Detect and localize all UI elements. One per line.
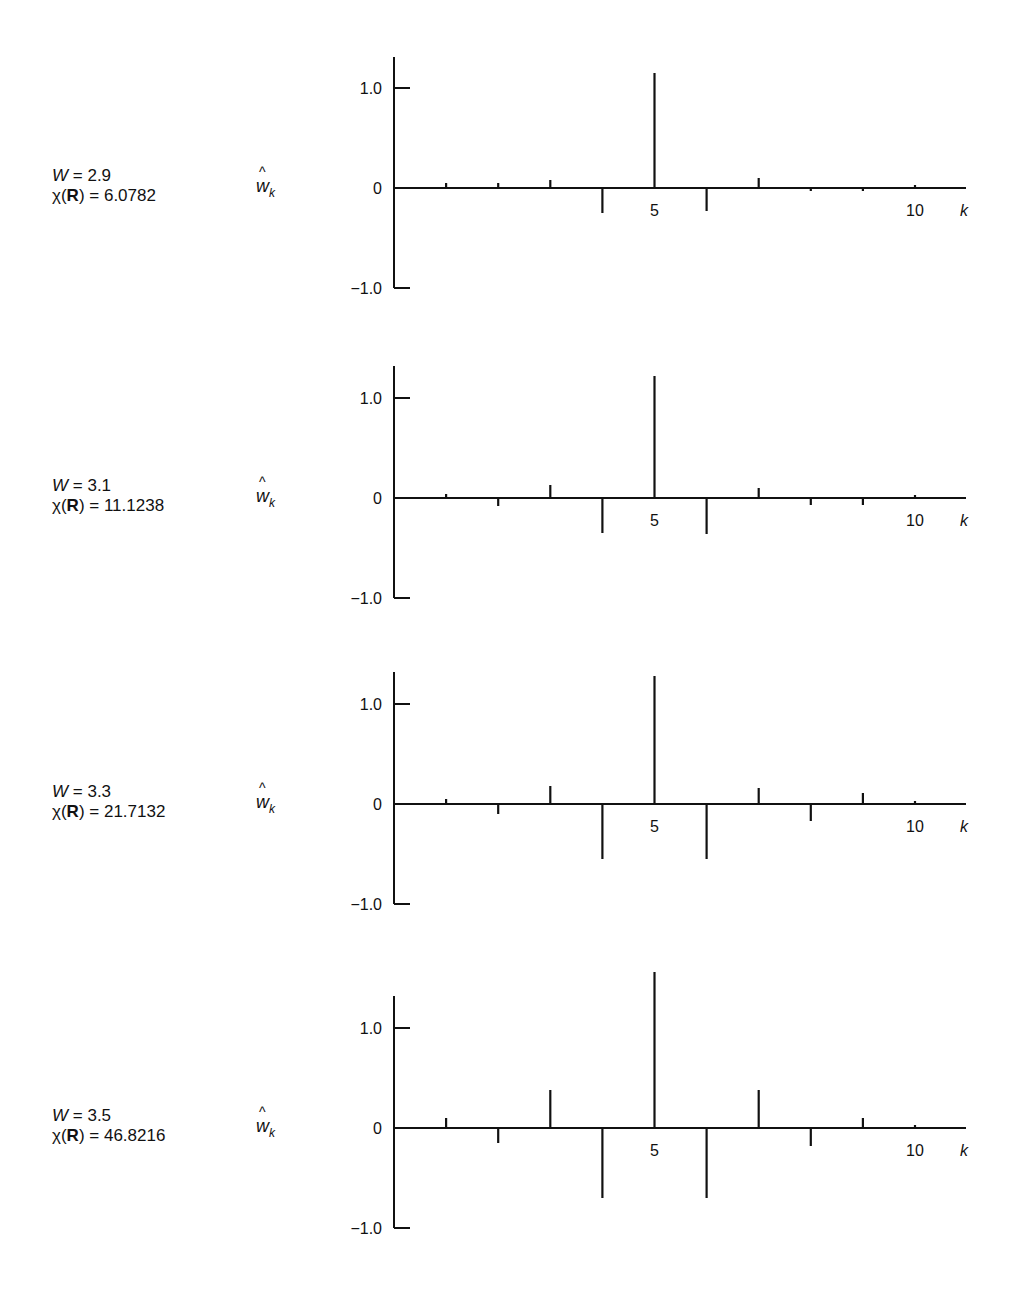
x-axis-label: k xyxy=(960,512,969,529)
stem-plots: 1.00−1.0510k1.00−1.0510k1.00−1.0510k1.00… xyxy=(0,0,1022,1291)
x-tick-label: 10 xyxy=(906,512,924,529)
x-tick-label: 10 xyxy=(906,202,924,219)
x-axis-label: k xyxy=(960,202,969,219)
x-tick-label: 5 xyxy=(650,818,659,835)
y-tick-label: 1.0 xyxy=(360,1020,382,1037)
y-tick-label: 1.0 xyxy=(360,696,382,713)
x-tick-label: 5 xyxy=(650,1142,659,1159)
y-tick-label: 1.0 xyxy=(360,390,382,407)
y-tick-label: 0 xyxy=(373,490,382,507)
y-tick-label: −1.0 xyxy=(350,1220,382,1237)
y-tick-label: 1.0 xyxy=(360,80,382,97)
x-axis-label: k xyxy=(960,818,969,835)
y-tick-label: −1.0 xyxy=(350,896,382,913)
x-tick-label: 5 xyxy=(650,202,659,219)
y-tick-label: 0 xyxy=(373,1120,382,1137)
x-tick-label: 5 xyxy=(650,512,659,529)
y-tick-label: 0 xyxy=(373,180,382,197)
x-axis-label: k xyxy=(960,1142,969,1159)
x-tick-label: 10 xyxy=(906,1142,924,1159)
y-tick-label: −1.0 xyxy=(350,590,382,607)
y-tick-label: −1.0 xyxy=(350,280,382,297)
x-tick-label: 10 xyxy=(906,818,924,835)
y-tick-label: 0 xyxy=(373,796,382,813)
